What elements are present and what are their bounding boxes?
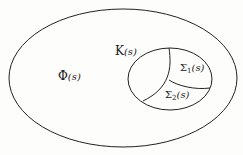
outer-ellipse <box>9 9 237 147</box>
sigma2-arg: (s) <box>177 89 190 100</box>
k-symbol: K <box>115 44 124 58</box>
phi-arg: (s) <box>68 71 81 82</box>
diagram-shapes <box>0 0 243 155</box>
label-phi: Φ(s) <box>58 69 81 83</box>
label-k: K(s) <box>115 44 137 58</box>
label-sigma-1: Σ1(s) <box>180 62 204 75</box>
phi-symbol: Φ <box>58 69 68 83</box>
divider-curve-2 <box>169 80 210 89</box>
k-arg: (s) <box>124 46 137 57</box>
set-diagram: Φ(s) K(s) Σ1(s) Σ2(s) <box>0 0 243 155</box>
sigma1-arg: (s) <box>192 62 205 73</box>
label-sigma-2: Σ2(s) <box>165 89 189 102</box>
